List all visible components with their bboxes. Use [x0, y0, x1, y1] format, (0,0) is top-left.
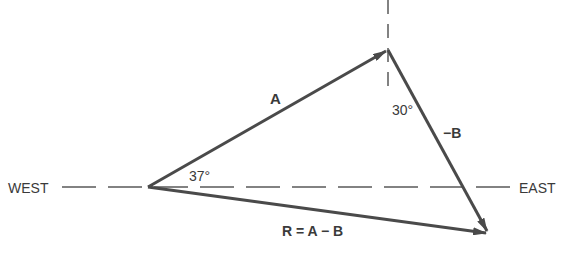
angle-37-label: 37° [189, 168, 210, 184]
vector-a [148, 51, 386, 187]
vector-a-label: A [270, 90, 281, 107]
east-label: EAST [519, 180, 556, 196]
vector-r-label: R = A − B [282, 223, 343, 239]
vector-minus-b [388, 50, 487, 231]
angle-30-label: 30° [392, 102, 413, 118]
west-label: WEST [8, 180, 49, 196]
vector-diagram: WEST EAST A −B R = A − B 37° 30° [0, 0, 571, 253]
vector-minus-b-label: −B [443, 125, 461, 141]
